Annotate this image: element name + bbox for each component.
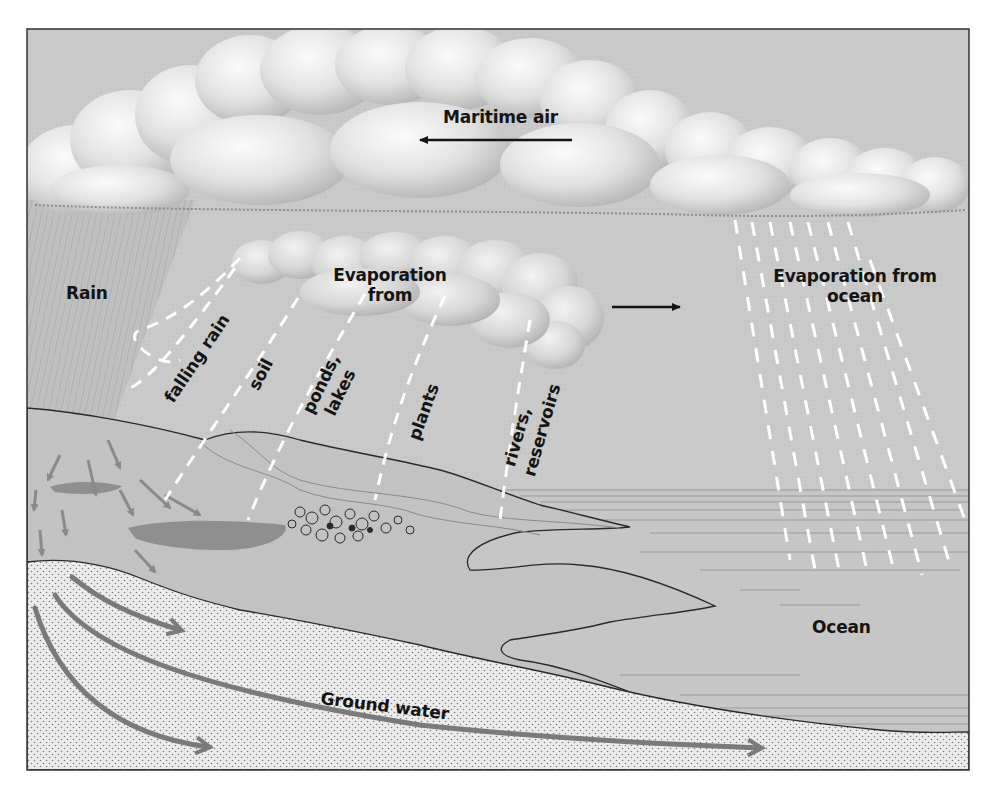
label-evaporation-ocean: Evaporation from ocean bbox=[770, 266, 940, 306]
label-evaporation-from: Evaporation from bbox=[330, 265, 450, 305]
label-evaporation-ocean-line2: ocean bbox=[770, 286, 940, 306]
label-evaporation-ocean-line1: Evaporation from bbox=[770, 266, 940, 286]
label-evaporation-line2: from bbox=[330, 285, 450, 305]
label-evaporation-line1: Evaporation bbox=[330, 265, 450, 285]
label-rain: Rain bbox=[66, 283, 108, 303]
label-maritime-air: Maritime air bbox=[443, 107, 558, 127]
hydrologic-cycle-diagram: Maritime air Rain Evaporation from falli… bbox=[0, 0, 991, 787]
label-ocean: Ocean bbox=[812, 617, 871, 637]
